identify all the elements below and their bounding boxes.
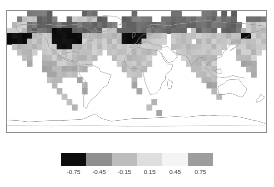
colorbar-tick-2: -0.15: [118, 168, 132, 175]
colorbar-swatch-3: [137, 153, 162, 166]
colorbar-tick-5: 0.75: [195, 168, 207, 175]
global-anomaly-map: [6, 10, 267, 133]
map-raster-layer: [7, 11, 266, 132]
colorbar-tick-1: -0.45: [92, 168, 106, 175]
colorbar-group: -0.75-0.45-0.150.150.450.75: [0, 150, 274, 183]
colorbar-swatch-4: [162, 153, 187, 166]
colorbar-swatch-1: [86, 153, 111, 166]
colorbar-swatch-5: [188, 153, 213, 166]
colorbar-tick-3: 0.15: [144, 168, 156, 175]
figure-panel: -0.75-0.45-0.150.150.450.75: [0, 0, 274, 187]
colorbar-swatch-0: [61, 153, 86, 166]
colorbar: [61, 153, 213, 166]
colorbar-tick-labels: -0.75-0.45-0.150.150.450.75: [0, 168, 274, 180]
colorbar-tick-0: -0.75: [67, 168, 81, 175]
colorbar-swatch-2: [112, 153, 137, 166]
colorbar-tick-4: 0.45: [169, 168, 181, 175]
